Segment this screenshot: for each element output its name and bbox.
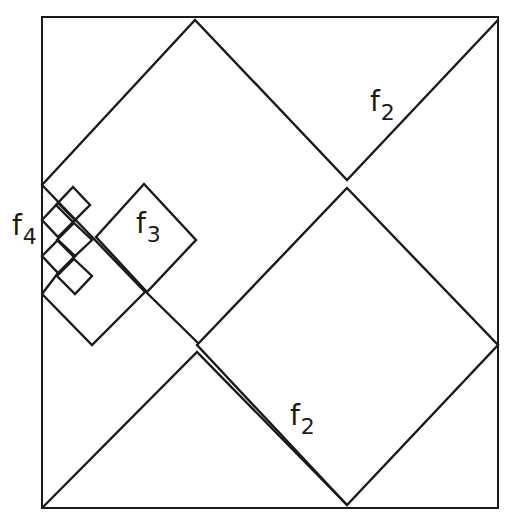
f4-diamond-cluster xyxy=(42,187,92,294)
small-diamond xyxy=(57,223,92,257)
label-f3: f3 xyxy=(136,210,161,246)
center-diamond-f2 xyxy=(197,188,498,505)
diagram-canvas xyxy=(0,0,517,526)
label-f2-bottom: f2 xyxy=(290,402,315,438)
small-diamond xyxy=(57,259,92,294)
upper-zigzag xyxy=(42,20,498,185)
small-diamond-edge xyxy=(42,273,58,294)
label-f2-top: f2 xyxy=(370,88,395,124)
label-f4: f4 xyxy=(12,212,37,248)
left-lower-diamond xyxy=(42,292,145,345)
small-diamond xyxy=(42,240,75,273)
outer-square xyxy=(42,17,498,508)
diagonal-connector xyxy=(147,293,197,342)
